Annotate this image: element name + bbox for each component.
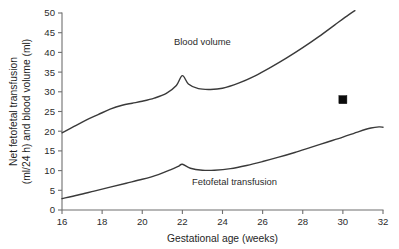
x-tick-label-30: 30	[338, 216, 349, 227]
y-tick-label-5: 5	[50, 185, 55, 196]
y-tick-label-25: 25	[44, 106, 55, 117]
markers-group	[339, 96, 347, 104]
series-label-blood-volume: Blood volume	[174, 36, 231, 47]
y-tick-label-30: 30	[44, 86, 55, 97]
chart-plot-area: 05101520253035404550161820222426283032 B…	[0, 0, 399, 249]
series-line-fetofetal-transfusion	[62, 127, 383, 199]
y-tick-label-40: 40	[44, 47, 55, 58]
chart-figure: 05101520253035404550161820222426283032 B…	[0, 0, 399, 249]
data-point-marker	[339, 96, 347, 104]
x-tick-label-24: 24	[217, 216, 228, 227]
y-axis-title-line1: Net fetofetal transfusion	[8, 57, 19, 166]
y-tick-label-20: 20	[44, 126, 55, 137]
x-tick-label-16: 16	[57, 216, 68, 227]
series-line-blood-volume	[62, 11, 355, 133]
x-tick-label-20: 20	[137, 216, 148, 227]
x-tick-label-18: 18	[97, 216, 108, 227]
x-tick-label-26: 26	[257, 216, 268, 227]
y-tick-label-10: 10	[44, 165, 55, 176]
x-axis-title: Gestational age (weeks)	[167, 233, 278, 244]
series-label-fetofetal-transfusion: Fetofetal transfusion	[192, 176, 277, 187]
y-tick-label-45: 45	[44, 27, 55, 38]
y-axis-title-line2: (ml/24 h) and blood volume (ml)	[21, 39, 32, 184]
y-tick-label-15: 15	[44, 145, 55, 156]
x-tick-label-28: 28	[297, 216, 308, 227]
y-tick-label-50: 50	[44, 7, 55, 18]
y-tick-label-35: 35	[44, 67, 55, 78]
x-tick-label-32: 32	[378, 216, 389, 227]
x-tick-label-22: 22	[177, 216, 188, 227]
y-tick-label-0: 0	[50, 204, 55, 215]
